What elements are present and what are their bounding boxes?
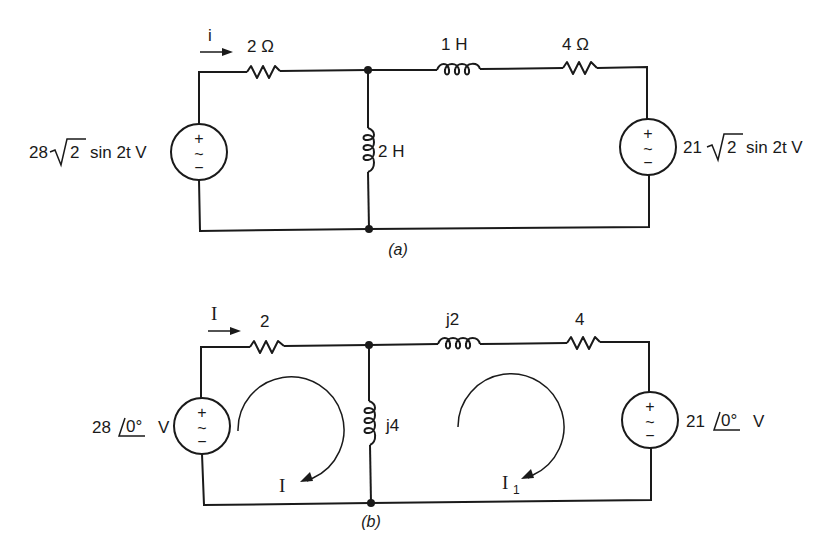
inductor-label: j4 xyxy=(385,416,399,435)
wire xyxy=(280,70,437,71)
resistor-icon xyxy=(567,337,600,349)
resistor-label: 4 Ω xyxy=(562,35,589,54)
junction-node xyxy=(365,225,373,233)
plus-sign: + xyxy=(643,125,652,142)
source-label: 21 2 sin 2t V xyxy=(683,134,803,160)
svg-text:sin 2t V: sin 2t V xyxy=(90,143,147,162)
resistor-icon xyxy=(250,341,284,353)
wire xyxy=(597,67,647,119)
mesh-current-arrow-icon xyxy=(458,374,564,478)
wire xyxy=(199,72,247,124)
svg-text:28: 28 xyxy=(92,418,111,437)
wire xyxy=(284,344,438,346)
plus-sign: + xyxy=(645,398,654,415)
plus-sign: + xyxy=(197,404,206,421)
wire xyxy=(480,68,563,69)
wire xyxy=(368,172,369,229)
minus-sign: − xyxy=(645,427,654,444)
wire xyxy=(201,347,250,398)
plus-sign: + xyxy=(194,130,203,147)
minus-sign: − xyxy=(643,154,652,171)
wire xyxy=(199,175,649,231)
arrowhead-icon xyxy=(230,327,241,335)
inductor-label: 2 H xyxy=(378,142,404,161)
source-label: 28 2 sin 2t V xyxy=(29,139,147,165)
inductor-icon xyxy=(365,401,376,445)
resistor-icon xyxy=(247,66,280,78)
svg-text:2: 2 xyxy=(70,143,79,162)
minus-sign: − xyxy=(194,159,203,176)
inductor-label: 1 H xyxy=(441,35,467,54)
junction-node xyxy=(367,499,375,507)
minus-sign: − xyxy=(197,433,206,450)
inductor-label: j2 xyxy=(445,310,459,329)
current-label: i xyxy=(208,26,212,45)
resistor-icon xyxy=(563,62,597,74)
mesh-current-label: I xyxy=(502,472,508,493)
resistor-label: 2 xyxy=(260,312,269,331)
figure-caption: (a) xyxy=(388,241,408,258)
svg-text:21: 21 xyxy=(683,138,702,157)
resistor-label: 4 xyxy=(575,310,584,329)
wire xyxy=(202,448,651,505)
svg-text:0°: 0° xyxy=(126,417,142,436)
junction-node xyxy=(364,66,372,74)
inductor-icon xyxy=(437,64,480,75)
svg-text:28: 28 xyxy=(29,143,48,162)
svg-text:21: 21 xyxy=(686,412,705,431)
source-label: 21 0° V xyxy=(686,411,765,431)
wire xyxy=(600,342,649,392)
inductor-icon xyxy=(438,338,480,349)
arrowhead-icon xyxy=(222,48,233,56)
inductor-icon xyxy=(364,128,375,172)
wire xyxy=(480,343,567,344)
mesh-current-label: I xyxy=(279,475,285,496)
figure-caption: (b) xyxy=(361,513,381,530)
svg-text:V: V xyxy=(753,412,765,431)
junction-node xyxy=(365,341,373,349)
svg-text:sin 2t V: sin 2t V xyxy=(746,138,803,157)
circuit-b: + ~ − + ~ − I 2 j2 4 j4 I I 1 28 0° V xyxy=(92,303,765,530)
radical-icon xyxy=(50,139,86,165)
radical-icon xyxy=(707,134,743,160)
circuit-diagram: + ~ − + ~ − i 2 Ω 1 H 4 Ω 2 H 28 2 sin 2… xyxy=(0,0,818,547)
current-label: I xyxy=(211,303,217,324)
arrowhead-icon xyxy=(521,469,534,479)
wire xyxy=(370,445,371,503)
source-label: 28 0° V xyxy=(92,417,170,437)
arrowhead-icon xyxy=(300,472,313,482)
circuit-a: + ~ − + ~ − i 2 Ω 1 H 4 Ω 2 H 28 2 sin 2… xyxy=(29,26,803,258)
svg-text:V: V xyxy=(158,418,170,437)
svg-text:2: 2 xyxy=(727,138,736,157)
mesh-current-subscript: 1 xyxy=(513,483,520,497)
mesh-current-arrow-icon xyxy=(238,377,344,481)
svg-text:0°: 0° xyxy=(721,411,737,430)
resistor-label: 2 Ω xyxy=(247,37,274,56)
